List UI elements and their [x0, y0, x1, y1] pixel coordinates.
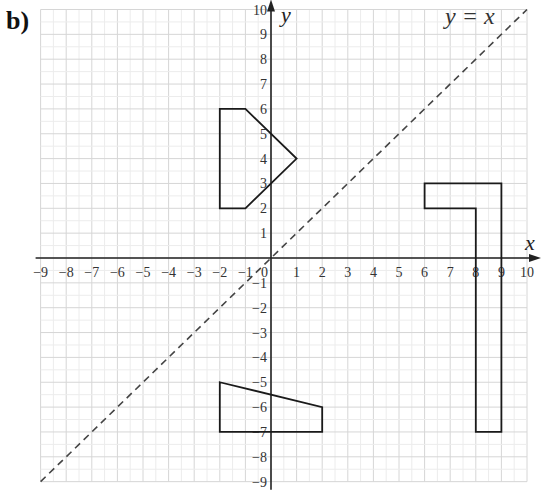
- x-tick-label: 4: [370, 265, 377, 280]
- y-tick-label: 4: [260, 152, 267, 167]
- x-axis-arrow-icon: [529, 254, 541, 262]
- x-axis-title: x: [524, 230, 535, 255]
- x-tick-label: −2: [212, 265, 227, 280]
- x-tick-label: −9: [33, 265, 48, 280]
- y-axis-arrow-icon: [267, 0, 275, 12]
- coordinate-grid: −9−8−7−6−5−4−3−2−112345678910−9−8−7−6−5−…: [0, 0, 546, 504]
- x-tick-label: 7: [447, 265, 454, 280]
- x-tick-label: −7: [84, 265, 99, 280]
- x-tick-label: 1: [293, 265, 300, 280]
- y-tick-label: 7: [260, 77, 267, 92]
- x-tick-label: −4: [161, 265, 176, 280]
- y-tick-label: 9: [260, 27, 267, 42]
- x-tick-label: 5: [396, 265, 403, 280]
- y-tick-label: −6: [252, 400, 267, 415]
- y-axis-title: y: [279, 2, 291, 27]
- x-tick-label: 2: [319, 265, 326, 280]
- x-tick-label: 10: [520, 265, 534, 280]
- x-tick-label: 6: [421, 265, 428, 280]
- y-tick-label: 6: [260, 102, 267, 117]
- x-tick-label: −8: [59, 265, 74, 280]
- y-tick-label: −3: [252, 326, 267, 341]
- axis-titles: xyy = x: [279, 2, 535, 256]
- y-tick-label: 2: [260, 201, 267, 216]
- y-tick-label: −8: [252, 450, 267, 465]
- y-tick-label: −4: [252, 350, 267, 365]
- line-label: y = x: [443, 3, 495, 29]
- origin-label: 0: [261, 265, 268, 280]
- axes: [36, 0, 541, 490]
- x-tick-label: −6: [110, 265, 125, 280]
- y-tick-label: 8: [260, 52, 267, 67]
- x-tick-label: −3: [187, 265, 202, 280]
- x-tick-label: 3: [344, 265, 351, 280]
- y-tick-label: −5: [252, 375, 267, 390]
- part-label: b): [6, 6, 29, 36]
- y-tick-label: 1: [260, 226, 267, 241]
- y-tick-label: −9: [252, 475, 267, 490]
- x-tick-label: −5: [136, 265, 151, 280]
- y-tick-label: 10: [253, 3, 267, 18]
- y-tick-label: −2: [252, 301, 267, 316]
